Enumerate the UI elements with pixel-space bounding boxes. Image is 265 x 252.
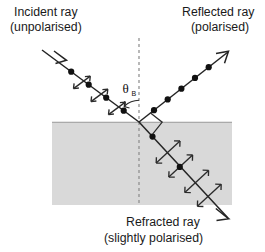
incident-pol-dot — [68, 69, 74, 75]
reflected-pol-dot — [151, 107, 157, 113]
refracted-ray-label-line1: Refracted ray — [126, 215, 201, 229]
angle-arc — [125, 100, 140, 106]
angle-theta-subscript: B — [132, 90, 137, 97]
incident-pol-dot — [121, 108, 127, 114]
brewster-angle-marker: θ B — [123, 81, 140, 108]
incident-pol-dot — [103, 95, 109, 101]
incident-pol-dot — [86, 82, 92, 88]
reflected-ray-label: Reflected ray (polarised) — [182, 5, 255, 34]
reflected-pol-dot — [165, 96, 171, 102]
refracted-pol-dot — [177, 164, 183, 170]
incident-ray-arrowhead — [54, 51, 67, 64]
reflected-pol-dot — [192, 75, 198, 81]
reflected-ray-label-line1: Reflected ray — [182, 5, 255, 19]
refracted-pol-dot — [149, 134, 155, 140]
diagram-canvas: θ B Incident ray (unpolarised) Reflected… — [0, 0, 265, 252]
refracted-ray-arrowhead — [216, 209, 229, 221]
brewster-angle-diagram: θ B Incident ray (unpolarised) Reflected… — [0, 0, 265, 252]
incident-ray-label-line1: Incident ray — [14, 5, 78, 19]
incident-ray-label-line2: (unpolarised) — [10, 20, 82, 34]
incident-ray-label: Incident ray (unpolarised) — [10, 5, 82, 34]
angle-theta-symbol: θ — [123, 81, 129, 96]
refracted-ray-label: Refracted ray (slightly polarised) — [104, 215, 203, 245]
reflected-ray-group — [139, 51, 229, 122]
reflected-ray-label-line2: (polarised) — [191, 20, 249, 34]
reflected-pol-dot — [178, 86, 184, 92]
reflected-pol-dot — [206, 64, 212, 70]
refracted-ray-label-line2: (slightly polarised) — [104, 231, 203, 245]
